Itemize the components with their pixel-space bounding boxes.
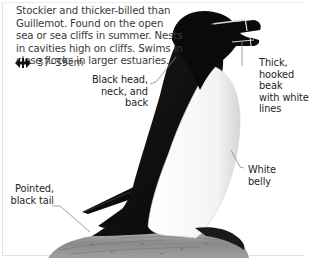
- size-measurement: 37–39cm: [15, 57, 84, 68]
- annotation-line: black tail: [4, 195, 54, 207]
- annotation-beak: Thick, hooked beak with white lines: [259, 57, 310, 115]
- annotation-line: neck, and back: [84, 86, 148, 109]
- annotation-tail: Pointed, black tail: [4, 183, 54, 206]
- annotation-belly: White belly: [248, 164, 298, 187]
- annotation-line: hooked: [259, 69, 310, 81]
- annotation-line: Black head,: [84, 74, 148, 86]
- description-line: in cavities high on cliffs. Swims in: [16, 43, 216, 56]
- annotation-line: belly: [248, 176, 298, 188]
- description-line: Guillemot. Found on the open: [16, 18, 216, 31]
- annotation-line: Pointed,: [4, 183, 54, 195]
- leader-line-tail: [52, 206, 90, 232]
- annotation-line: beak: [259, 80, 310, 92]
- annotation-line: with white: [259, 92, 310, 104]
- description-line: sea or sea cliffs in summer. Nests: [16, 30, 216, 43]
- wingspan-arrows-icon: [15, 58, 31, 68]
- annotation-line: White: [248, 164, 298, 176]
- description-line: Stockier and thicker-billed than: [16, 5, 216, 18]
- annotation-head: Black head, neck, and back: [84, 74, 148, 109]
- size-value: 37–39cm: [37, 57, 84, 68]
- annotation-line: Thick,: [259, 57, 310, 69]
- annotation-line: lines: [259, 103, 310, 115]
